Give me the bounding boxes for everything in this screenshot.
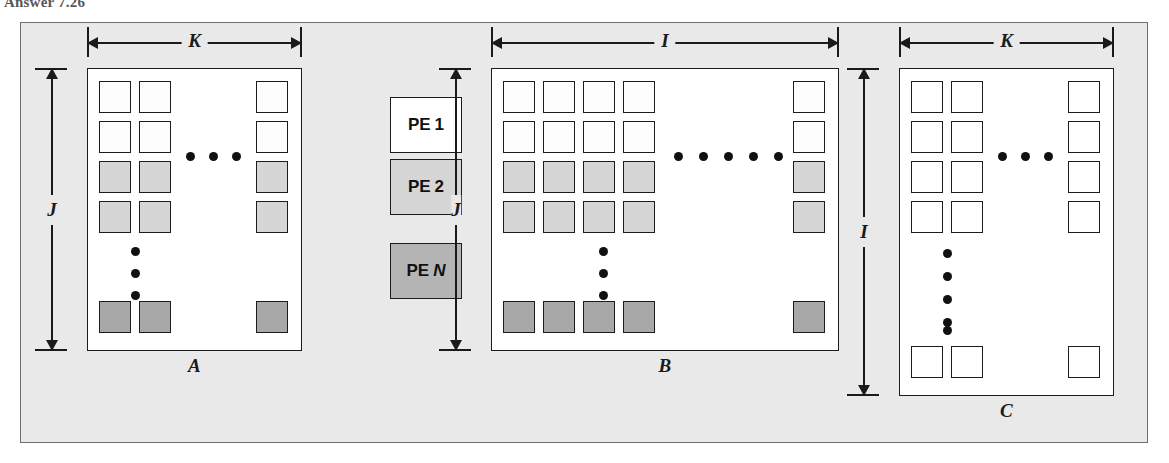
page-header-text: Answer 7.26 <box>4 0 85 11</box>
dimension-j-matrix-b: J <box>446 68 466 351</box>
matrix-cell <box>911 121 943 153</box>
dimension-arrow-bottom <box>450 340 462 351</box>
matrix-cell <box>793 301 825 333</box>
ellipsis-dot <box>232 152 241 161</box>
matrix-cell <box>503 121 535 153</box>
matrix-cell <box>256 301 288 333</box>
dimension-label-j: J <box>47 195 57 225</box>
matrix-cell <box>793 121 825 153</box>
matrix-box-a <box>87 68 302 351</box>
matrix-label-b: B <box>491 355 839 377</box>
dimension-label-j: J <box>451 195 461 225</box>
matrix-cell <box>583 81 615 113</box>
matrix-cell <box>583 301 615 333</box>
matrix-cell <box>951 161 983 193</box>
matrix-cell <box>99 81 131 113</box>
matrix-cell <box>951 81 983 113</box>
matrix-cell <box>543 201 575 233</box>
ellipsis-dot <box>599 247 608 256</box>
figure-frame: K J <box>20 22 1148 443</box>
matrix-cell <box>623 121 655 153</box>
matrix-cell <box>793 81 825 113</box>
dimension-k-matrix-a: K <box>87 33 302 53</box>
legend-pe-prefix: PE <box>408 115 431 135</box>
ellipsis-dot <box>774 152 783 161</box>
matrix-cell <box>793 201 825 233</box>
matrix-cell <box>139 161 171 193</box>
matrix-cell <box>623 161 655 193</box>
dimension-arrow-top <box>46 68 58 79</box>
legend-pe-number: 1 <box>431 115 444 135</box>
matrix-cell <box>911 81 943 113</box>
matrix-cell <box>256 201 288 233</box>
ellipsis-dot <box>749 152 758 161</box>
matrix-cell <box>951 201 983 233</box>
dimension-arrow-bottom <box>46 340 58 351</box>
ellipsis-dot <box>1021 152 1030 161</box>
dimension-arrow-top <box>450 68 462 79</box>
dimension-k-matrix-c: K <box>899 33 1114 53</box>
matrix-cell <box>623 81 655 113</box>
ellipsis-dot <box>131 269 140 278</box>
matrix-cell <box>1068 161 1100 193</box>
ellipsis-dot <box>943 249 952 258</box>
matrix-cell <box>543 301 575 333</box>
matrix-cell <box>1068 81 1100 113</box>
legend-pe-prefix: PE <box>407 261 430 281</box>
matrix-cell <box>543 121 575 153</box>
matrix-cell <box>139 301 171 333</box>
matrix-box-b <box>491 68 839 351</box>
matrix-cell <box>623 301 655 333</box>
legend-pe-number: N <box>429 261 445 281</box>
matrix-cell <box>256 121 288 153</box>
matrix-cell <box>139 201 171 233</box>
matrix-cell <box>503 161 535 193</box>
matrix-cell <box>139 81 171 113</box>
matrix-cell <box>911 161 943 193</box>
dimension-arrow-top <box>858 68 870 79</box>
dimension-label-k: K <box>181 31 208 51</box>
matrix-cell <box>256 161 288 193</box>
dimension-arrow-right <box>1103 37 1114 49</box>
dimension-arrow-left <box>899 37 910 49</box>
dimension-i-matrix-b: I <box>491 33 839 53</box>
matrix-cell <box>256 81 288 113</box>
matrix-box-c <box>899 68 1114 396</box>
dimension-j-matrix-a: J <box>42 68 62 351</box>
matrix-cell <box>583 201 615 233</box>
matrix-cell <box>583 121 615 153</box>
dimension-arrow-right <box>828 37 839 49</box>
dimension-label-i: I <box>654 31 675 51</box>
matrix-cell <box>793 161 825 193</box>
matrix-cell <box>583 161 615 193</box>
ellipsis-dot <box>599 269 608 278</box>
dimension-arrow-right <box>291 37 302 49</box>
ellipsis-dot <box>943 272 952 281</box>
ellipsis-dot <box>599 291 608 300</box>
ellipsis-dot <box>943 295 952 304</box>
matrix-cell <box>1068 121 1100 153</box>
ellipsis-dot <box>131 291 140 300</box>
matrix-cell <box>99 161 131 193</box>
ellipsis-dot <box>186 152 195 161</box>
dimension-label-i: I <box>860 217 867 247</box>
ellipsis-dot <box>943 326 952 335</box>
matrix-cell <box>951 346 983 378</box>
matrix-cell <box>951 121 983 153</box>
matrix-cell <box>99 201 131 233</box>
ellipsis-dot <box>209 152 218 161</box>
dimension-arrow-left <box>491 37 502 49</box>
dimension-arrow-left <box>87 37 98 49</box>
matrix-cell <box>503 301 535 333</box>
dimension-label-k: K <box>993 31 1020 51</box>
matrix-cell <box>543 81 575 113</box>
ellipsis-dot <box>131 247 140 256</box>
dimension-arrow-bottom <box>858 385 870 396</box>
dimension-i-matrix-c: I <box>854 68 874 396</box>
matrix-label-a: A <box>87 355 302 377</box>
ellipsis-dot <box>1044 152 1053 161</box>
ellipsis-dot <box>724 152 733 161</box>
matrix-cell <box>911 346 943 378</box>
matrix-cell <box>139 121 171 153</box>
legend-pe-prefix: PE <box>408 177 431 197</box>
